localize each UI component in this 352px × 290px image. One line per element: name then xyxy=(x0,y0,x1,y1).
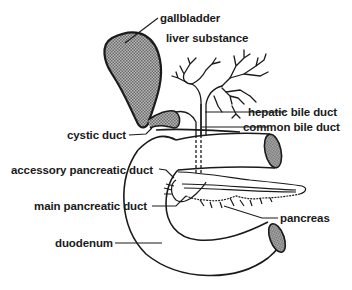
pancreas-leader xyxy=(224,206,278,218)
label-accessory-pancreatic-duct: accessory pancreatic duct xyxy=(11,164,153,176)
accessory-pancreatic-duct-leader xyxy=(159,169,174,178)
label-duodenum: duodenum xyxy=(55,237,113,249)
label-main-pancreatic-duct: main pancreatic duct xyxy=(34,200,147,212)
main-pancreatic-duct-leader xyxy=(152,196,186,206)
label-pancreas: pancreas xyxy=(280,212,330,224)
label-common-bile-duct: common bile duct xyxy=(243,121,340,133)
label-gallbladder: gallbladder xyxy=(160,12,220,24)
pancreas-shape xyxy=(164,172,306,208)
duodenum-lower-cut-end xyxy=(265,222,288,255)
duodenum-shape xyxy=(124,129,284,275)
label-hepatic-bile-duct: hepatic bile duct xyxy=(248,106,337,118)
anatomy-diagram: gallbladder liver substance hepatic bile… xyxy=(0,0,352,290)
duodenum-upper-cut-end xyxy=(262,133,285,170)
gallbladder-shape xyxy=(104,32,179,128)
label-cystic-duct: cystic duct xyxy=(67,129,126,141)
label-liver-substance: liver substance xyxy=(166,32,248,44)
cystic-duct-leader xyxy=(129,128,152,135)
